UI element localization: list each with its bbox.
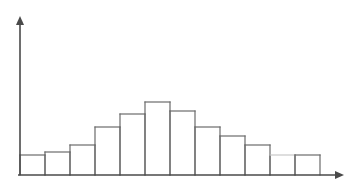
chart-background (0, 0, 356, 186)
histogram-figure (0, 0, 356, 186)
histogram-svg (0, 0, 356, 186)
